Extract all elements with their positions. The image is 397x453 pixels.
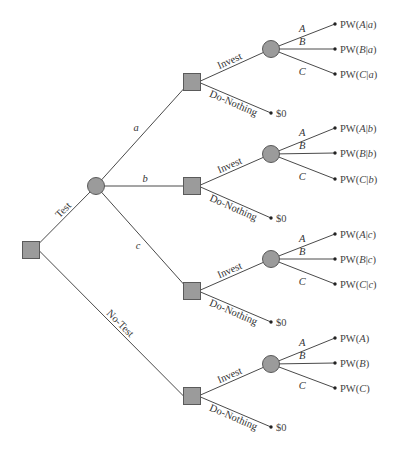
label-alt-C: C [299,171,307,182]
terminal-value-pw: PW(C|b) [340,174,378,186]
label-alt-B: B [299,140,306,151]
terminal-dot [269,111,272,114]
terminal-dot [333,282,336,285]
label-test: Test [53,200,73,220]
label-outcome-b: b [142,173,147,184]
terminal-dot [333,151,336,154]
terminal-dot [333,257,336,260]
terminal-dot [333,22,336,25]
terminal-value-pw: PW(A) [340,333,370,345]
label-do-nothing: Do-Nothing [208,297,260,327]
label-alt-C: C [299,276,307,287]
chance-node [263,356,280,373]
label-alt-C: C [299,380,307,391]
decision-node [184,74,201,91]
terminal-dot [269,216,272,219]
terminal-value-pw: PW(B|a) [340,44,377,56]
terminal-dot [269,320,272,323]
terminal-dot [333,232,336,235]
terminal-value-pw: PW(C|a) [340,69,378,81]
label-alt-A: A [298,127,306,138]
terminal-value-pw: PW(C) [340,383,370,395]
label-do-nothing: Do-Nothing [208,88,260,118]
terminal-value-zero: $0 [276,422,287,433]
chance-node [263,251,280,268]
decision-node [184,388,201,405]
label-do-nothing: Do-Nothing [208,402,260,432]
terminal-dot [269,425,272,428]
terminal-dot [333,47,336,50]
terminal-dot [333,336,336,339]
terminal-dot [333,177,336,180]
label-alt-C: C [299,66,307,77]
terminal-value-pw: PW(B|b) [340,148,377,160]
label-outcome-a: a [133,122,138,133]
decision-tree-diagram: TestNo-TestabcInvestDo-Nothing$0APW(A|a)… [0,0,397,453]
label-alt-B: B [299,36,306,47]
terminal-dot [333,126,336,129]
label-alt-B: B [299,350,306,361]
edge-outcome-a [96,89,184,186]
label-alt-A: A [298,233,306,244]
terminal-value-pw: PW(A|c) [340,229,376,241]
terminal-value-zero: $0 [276,317,287,328]
label-no-test: No-Test [105,307,137,339]
edge-alt-B [271,363,335,364]
terminal-value-pw: PW(B|c) [340,254,376,266]
label-do-nothing: Do-Nothing [208,192,260,223]
decision-node [184,178,201,195]
label-alt-A: A [298,337,306,348]
terminal-value-pw: PW(A|a) [340,19,377,31]
edge-outcome-c [96,186,184,284]
label-alt-A: A [298,23,306,34]
branch-labels: TestNo-TestabcInvestDo-Nothing$0APW(A|a)… [53,19,378,433]
edge-alt-B [271,153,335,154]
terminal-value-pw: PW(A|b) [340,123,377,135]
test-chance-node [88,178,105,195]
terminal-dot [333,72,336,75]
root-decision-node [23,242,40,259]
terminal-dot [333,361,336,364]
tree-nodes [23,22,337,428]
decision-node [184,283,201,300]
terminal-value-pw: PW(B) [340,358,370,370]
label-outcome-c: c [136,240,141,251]
chance-node [263,41,280,58]
edge-test [40,186,97,243]
label-alt-B: B [299,246,306,257]
chance-node [263,146,280,163]
terminal-value-zero: $0 [276,213,287,224]
terminal-value-pw: PW(C|c) [340,279,377,291]
terminal-value-zero: $0 [276,108,287,119]
edge-no-test [40,251,184,396]
terminal-dot [333,386,336,389]
